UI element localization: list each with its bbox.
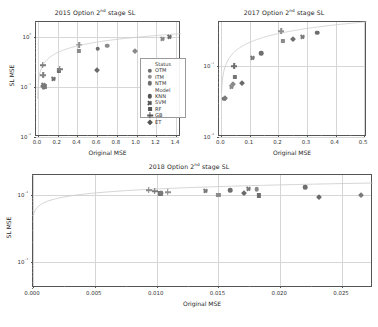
data-point xyxy=(57,66,63,72)
data-point xyxy=(250,56,255,61)
data-point xyxy=(51,76,56,81)
data-point xyxy=(77,49,81,53)
data-point xyxy=(231,63,237,69)
yaxis-tick-label: 10⁻¹ xyxy=(9,82,31,90)
xaxis-tick-label: 0.1 xyxy=(245,139,254,145)
data-point xyxy=(152,188,158,194)
legend-item[interactable]: ET xyxy=(143,119,182,125)
data-point xyxy=(246,186,251,191)
data-point xyxy=(146,187,152,193)
xaxis-tick-label: 0.020 xyxy=(272,290,287,296)
xaxis-tick-label: 0.0 xyxy=(216,139,225,145)
yaxis-tick xyxy=(34,137,36,138)
data-point xyxy=(165,189,171,195)
data-point xyxy=(40,72,46,78)
xaxis-tick-label: 1.0 xyxy=(131,139,140,145)
xaxis-label-2015: Original MSE xyxy=(35,149,180,156)
xaxis-label-2017: Original MSE xyxy=(218,149,366,156)
yaxis-tick-label: 10⁻¹ xyxy=(192,61,214,69)
legend-marker-circle-icon xyxy=(143,80,155,86)
xaxis-tick-label: 0.005 xyxy=(86,290,101,296)
yaxis-tick xyxy=(217,137,219,138)
subplot-2017: 2017 Option 2nd stage SL Original MSE 0.… xyxy=(190,6,378,161)
data-point xyxy=(281,38,285,42)
plot-legend: StatusOTMITMNTMModelKNNSVMRFGBET xyxy=(140,58,186,118)
gridline-horizontal xyxy=(219,137,365,138)
xaxis-tick-label: 1.4 xyxy=(171,139,180,145)
xaxis-tick-label: 0.4 xyxy=(72,139,81,145)
data-point xyxy=(259,51,264,56)
data-point xyxy=(278,28,284,34)
yaxis-tick-label: 10⁻² xyxy=(9,132,31,140)
xaxis-tick-label: 0.025 xyxy=(333,290,348,296)
data-point xyxy=(41,82,46,87)
plot-title-2018: 2018 Option 2nd stage SL xyxy=(0,162,378,170)
xaxis-tick-label: 0.3 xyxy=(302,139,311,145)
data-point xyxy=(40,62,46,68)
data-point xyxy=(105,44,110,49)
yaxis-tick-label: 10⁻³ xyxy=(6,257,28,265)
xaxis-tick-label: 0.2 xyxy=(273,139,282,145)
plot-area-2017 xyxy=(218,21,366,136)
legend-marker-diamond-icon xyxy=(143,119,155,125)
yaxis-tick-label: 10⁻² xyxy=(192,132,214,140)
xaxis-tick-label: 0.2 xyxy=(52,139,61,145)
xaxis-tick-label: 0.010 xyxy=(148,290,163,296)
figure-canvas: 2015 Option 2nd stage SL Original MSE SL… xyxy=(0,0,378,327)
data-point xyxy=(166,35,171,40)
subplot-2015: 2015 Option 2nd stage SL Original MSE SL… xyxy=(0,6,190,161)
yaxis-tick-label: 10⁰ xyxy=(9,32,31,40)
data-point xyxy=(257,193,261,197)
data-point xyxy=(315,31,320,36)
yaxis-minor-tick xyxy=(32,288,33,289)
data-point xyxy=(216,193,220,197)
xaxis-tick-label: 1.2 xyxy=(151,139,160,145)
subplot-2018: 2018 Option 2nd stage SL Original MSE SL… xyxy=(0,160,378,327)
xaxis-tick-label: 0.4 xyxy=(330,139,339,145)
gridline-horizontal xyxy=(36,137,179,138)
xaxis-label-2018: Original MSE xyxy=(32,300,372,307)
data-point xyxy=(76,42,82,48)
xaxis-tick-label: 0.015 xyxy=(210,290,225,296)
data-point xyxy=(228,188,233,193)
data-point xyxy=(160,36,165,41)
xaxis-tick-label: 0.5 xyxy=(359,139,368,145)
legend-item-label: ET xyxy=(155,119,161,125)
xaxis-tick-label: 0.000 xyxy=(24,290,39,296)
plot-title-2015: 2015 Option 2nd stage SL xyxy=(0,8,190,16)
data-point xyxy=(233,75,237,79)
data-point xyxy=(254,187,259,192)
data-point xyxy=(303,185,308,190)
yaxis-tick-label: 10⁻² xyxy=(6,190,28,198)
data-point xyxy=(300,34,305,39)
plot-title-2017: 2017 Option 2nd stage SL xyxy=(190,8,378,16)
data-point xyxy=(203,189,208,194)
xaxis-tick-label: 0.0 xyxy=(33,139,42,145)
plot-area-2018 xyxy=(32,174,372,287)
xaxis-tick-label: 0.6 xyxy=(92,139,101,145)
yaxis-label-2018: SL MSE xyxy=(5,208,12,248)
data-point xyxy=(95,46,100,51)
xaxis-tick-label: 0.8 xyxy=(112,139,121,145)
